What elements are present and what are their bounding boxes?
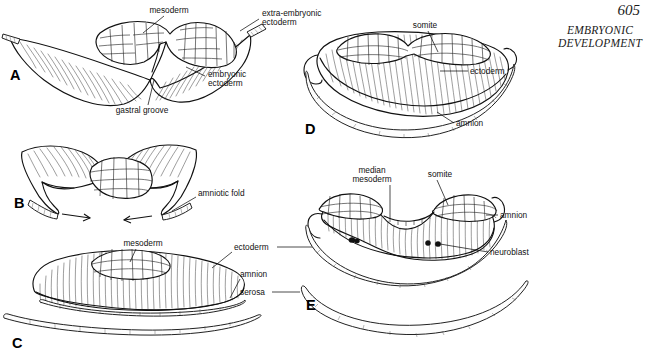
label-e-amnion: amnion [500,210,528,220]
label-a-gastral-groove: gastral groove [116,105,169,115]
panel-e-illustration: median mesoderm somite amnion neuroblast… [301,165,529,337]
label-c-ectoderm: ectoderm [234,242,269,252]
panel-b-arrows [62,214,152,223]
label-d-ectoderm: ectoderm [470,66,505,76]
panel-a-illustration: mesoderm extra-embryonic ectoderm embryo… [2,5,321,115]
label-e-mesoderm: mesoderm [352,174,391,184]
label-a-mesoderm: mesoderm [149,5,188,15]
label-c-serosa: serosa [240,287,265,297]
neuroblast-right-2 [435,241,441,246]
label-c-amnion: amnion [240,269,268,279]
panel-e-serosa-layer [301,281,528,335]
panel-c-mesoderm [92,250,170,279]
label-a-embryonic-ectoderm: ectoderm [208,78,243,88]
panel-c-illustration: mesoderm ectoderm amnion serosa C [4,238,318,351]
neuroblast-left [349,237,355,242]
panel-letter-e: E [306,297,316,313]
panel-b-illustration: amniotic fold B [14,145,245,223]
panel-c-serosa-layer [4,314,261,335]
neuroblast-right [425,240,430,245]
label-d-amnion: amnion [456,118,484,128]
label-e-neuroblast: neuroblast [490,247,529,257]
label-e-somite: somite [428,169,453,179]
label-a-extra-embryonic-ectoderm: ectoderm [262,17,297,27]
panel-d-illustration: somite ectoderm amnion D [304,20,517,138]
panel-letter-a: A [10,67,21,83]
label-c-mesoderm: mesoderm [123,238,162,248]
figure-page: 605 EMBRYONIC DEVELOPMENT [0,0,658,360]
label-b-amniotic-fold: amniotic fold [198,188,245,198]
label-d-somite: somite [413,20,438,30]
left-extraembryonic-tip [2,34,20,44]
embryo-figure: mesoderm extra-embryonic ectoderm embryo… [0,0,658,360]
panel-b-mesoderm [90,158,152,199]
panel-letter-c: C [12,335,23,351]
panel-letter-b: B [14,195,24,211]
panel-letter-d: D [305,121,315,137]
neuroblast-left-2 [354,239,359,243]
